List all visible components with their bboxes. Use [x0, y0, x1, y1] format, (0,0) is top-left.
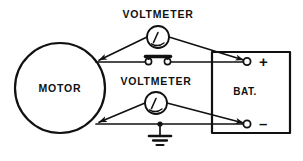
voltmeter-top-label: VOLTMETER: [122, 8, 193, 20]
wire-voltmeter-bottom-right-lead: [167, 103, 244, 123]
battery-terminal-positive: [243, 58, 250, 65]
wiring-diagram: VOLTMETER VOLTMETER MOTOR BAT. + –: [0, 0, 303, 161]
positive-sign-label: +: [259, 53, 268, 70]
voltmeter-bottom-body: [145, 92, 167, 114]
voltmeter-bottom-label: VOLTMETER: [120, 75, 191, 87]
motor-label: MOTOR: [39, 82, 82, 94]
battery-terminal-negative: [243, 120, 250, 127]
voltmeter-top-body: [147, 26, 169, 48]
wire-voltmeter-top-right-lead: [169, 37, 244, 60]
wire-voltmeter-top-left-lead: [99, 37, 147, 60]
battery-label: BAT.: [233, 86, 256, 97]
wire-voltmeter-bottom-left-lead: [99, 103, 145, 122]
negative-sign-label: –: [259, 115, 267, 132]
diagram-canvas: VOLTMETER VOLTMETER MOTOR BAT. + –: [0, 0, 303, 161]
